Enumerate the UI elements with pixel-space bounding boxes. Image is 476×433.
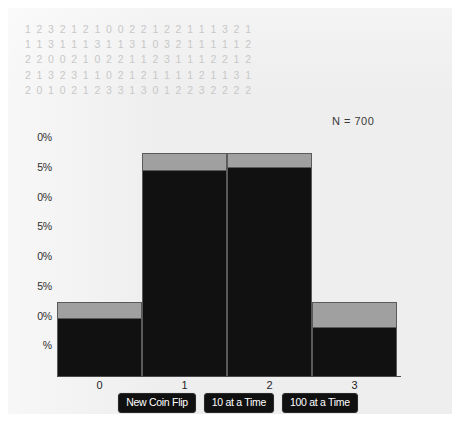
data-digit: 0	[57, 83, 69, 98]
data-digit: 1	[92, 68, 104, 83]
data-digit: 1	[80, 52, 92, 67]
control-button-bar: New Coin Flip10 at a Time100 at a Time	[0, 393, 476, 413]
data-digit: 1	[126, 52, 138, 67]
data-digit: 2	[80, 22, 92, 37]
data-row: 12321210022122111321	[22, 22, 272, 37]
data-digit: 3	[126, 37, 138, 52]
data-digit: 2	[208, 52, 220, 67]
histogram-plot-area	[57, 138, 397, 376]
data-row: 21323110212111121131	[22, 68, 272, 83]
data-digit: 1	[126, 68, 138, 83]
data-digit: 1	[184, 37, 196, 52]
data-digit: 3	[92, 37, 104, 52]
data-digit: 1	[208, 37, 220, 52]
x-axis-tick-label: 0	[88, 379, 112, 391]
data-digit: 0	[150, 37, 162, 52]
data-digit: 3	[196, 83, 208, 98]
raw-data-digit-grid: 1232121002212211132111311131131032111112…	[22, 22, 272, 98]
data-digit: 0	[150, 83, 162, 98]
data-digit: 1	[219, 37, 231, 52]
data-digit: 2	[219, 52, 231, 67]
data-digit: 1	[22, 22, 34, 37]
data-digit: 2	[242, 83, 254, 98]
data-digit: 2	[103, 52, 115, 67]
data-digit: 2	[242, 52, 254, 67]
data-digit: 3	[115, 83, 127, 98]
expected-proportion-bar	[312, 302, 397, 329]
data-digit: 1	[34, 37, 46, 52]
data-digit: 3	[68, 68, 80, 83]
data-digit: 2	[231, 83, 243, 98]
x-axis-tick-label: 1	[173, 379, 197, 391]
data-digit: 1	[173, 68, 185, 83]
data-digit: 1	[184, 22, 196, 37]
data-digit: 0	[45, 52, 57, 67]
data-digit: 0	[103, 22, 115, 37]
data-digit: 2	[173, 83, 185, 98]
data-digit: 2	[68, 52, 80, 67]
data-digit: 1	[161, 68, 173, 83]
hundred-at-a-time-button[interactable]: 100 at a Time	[282, 393, 358, 413]
data-digit: 2	[231, 22, 243, 37]
y-axis-tick-label: 5%	[8, 220, 52, 232]
data-digit: 1	[80, 68, 92, 83]
expected-proportion-bar	[142, 153, 227, 171]
data-digit: 1	[196, 37, 208, 52]
data-digit: 1	[138, 52, 150, 67]
expected-proportion-bar	[57, 302, 142, 320]
data-digit: 1	[173, 52, 185, 67]
data-digit: 2	[219, 83, 231, 98]
data-digit: 2	[138, 68, 150, 83]
data-digit: 3	[161, 37, 173, 52]
data-digit: 2	[22, 52, 34, 67]
observed-proportion-bar	[142, 171, 227, 376]
data-digit: 1	[68, 37, 80, 52]
new-coin-flip-button[interactable]: New Coin Flip	[118, 393, 195, 413]
data-digit: 3	[219, 22, 231, 37]
data-digit: 0	[92, 52, 104, 67]
data-digit: 2	[57, 22, 69, 37]
data-digit: 1	[242, 22, 254, 37]
data-digit: 2	[115, 68, 127, 83]
data-digit: 1	[103, 37, 115, 52]
data-digit: 1	[34, 68, 46, 83]
data-digit: 1	[80, 83, 92, 98]
data-digit: 3	[138, 83, 150, 98]
data-digit: 2	[173, 22, 185, 37]
data-digit: 2	[242, 37, 254, 52]
data-digit: 0	[57, 52, 69, 67]
data-digit: 1	[208, 22, 220, 37]
data-digit: 2	[184, 83, 196, 98]
data-row: 20102123313012232222	[22, 83, 272, 98]
data-digit: 2	[22, 68, 34, 83]
observed-proportion-bar	[57, 319, 142, 376]
data-digit: 3	[161, 52, 173, 67]
data-digit: 2	[57, 68, 69, 83]
ten-at-a-time-button[interactable]: 10 at a Time	[204, 393, 274, 413]
data-row: 11311131131032111112	[22, 37, 272, 52]
data-digit: 1	[219, 68, 231, 83]
data-digit: 1	[138, 37, 150, 52]
data-digit: 2	[138, 22, 150, 37]
data-digit: 1	[242, 68, 254, 83]
data-digit: 2	[150, 52, 162, 67]
data-digit: 1	[45, 83, 57, 98]
histogram-bar	[227, 138, 312, 376]
data-digit: 2	[115, 52, 127, 67]
y-axis-tick-label: 0%	[8, 250, 52, 262]
data-digit: 1	[115, 37, 127, 52]
data-digit: 1	[208, 68, 220, 83]
data-digit: 2	[173, 37, 185, 52]
data-digit: 3	[103, 83, 115, 98]
data-digit: 1	[126, 83, 138, 98]
data-digit: 2	[92, 83, 104, 98]
data-digit: 3	[45, 68, 57, 83]
data-digit: 2	[126, 22, 138, 37]
y-axis-tick-label: 5%	[8, 161, 52, 173]
y-axis-tick-label: 0%	[8, 191, 52, 203]
histogram-bar	[57, 138, 142, 376]
data-row: 22002102211231112212	[22, 52, 272, 67]
data-digit: 1	[57, 37, 69, 52]
data-digit: 1	[92, 22, 104, 37]
data-digit: 2	[22, 83, 34, 98]
